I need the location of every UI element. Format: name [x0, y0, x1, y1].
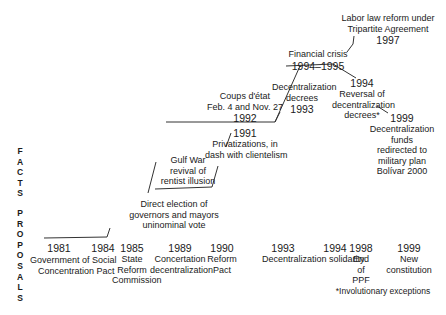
fact-text: governors and mayors: [119, 210, 229, 221]
proposal-year: 1998: [348, 242, 374, 254]
proposal-text: PPF: [348, 275, 374, 286]
fact-text: revival of: [160, 166, 216, 177]
proposal-text: Pact: [207, 265, 237, 276]
fact-year: 1993: [272, 103, 332, 115]
fact-text: Direct election of: [119, 199, 229, 210]
fact-text: funds: [365, 135, 439, 146]
fact-text: military plan: [365, 156, 439, 167]
fact-text: rentist illusion: [160, 176, 216, 187]
proposal-year: 1989: [150, 242, 210, 254]
fact-text: Financial crisis: [288, 49, 348, 60]
fact-text: decentralization: [332, 100, 392, 111]
proposal-text: Reform: [112, 265, 152, 276]
proposal-text: Reform: [207, 254, 237, 265]
proposal-year: 1993: [263, 242, 303, 254]
fact-privatizations: 1991 Privatizations, in dash with client…: [205, 127, 285, 160]
proposal-text: Concertation: [150, 254, 210, 265]
proposal-1990: 1990 Reform Pact: [207, 242, 237, 275]
proposal-1989: 1989 Concertation decentralization: [150, 242, 210, 275]
fact-funds-redirected: 1999 Decentralization funds redirected t…: [365, 112, 439, 177]
fact-text: Privatizations, in: [205, 139, 285, 150]
proposal-gov-social-text: Government of Social Concentration Pact: [30, 255, 114, 276]
proposal-year: 1985: [112, 242, 152, 254]
proposal-year: 1981: [44, 242, 74, 254]
proposal-1985: 1985 State Reform Commission: [112, 242, 152, 286]
proposal-text: Decentralization solidarity: [262, 254, 362, 265]
proposal-year: 1994: [320, 242, 350, 254]
proposal-1993: 1993: [263, 242, 303, 254]
fact-financial-crisis: Financial crisis 1994–1995: [288, 49, 348, 72]
proposal-year: 1990: [207, 242, 237, 254]
proposal-year: 1999: [384, 242, 434, 254]
fact-text: Decentralization: [272, 82, 332, 93]
fact-text: uninominal vote: [119, 220, 229, 231]
fact-direct-election: Direct election of governors and mayors …: [119, 199, 229, 231]
proposal-1981: 1981: [44, 242, 74, 254]
fact-text: redirected to: [365, 145, 439, 156]
fact-text: Labor law reform under: [336, 13, 440, 24]
proposal-1999: 1999 New constitution: [384, 242, 434, 275]
proposal-decentralization-solidarity: Decentralization solidarity: [262, 254, 362, 265]
fact-year: 1991: [205, 127, 285, 139]
fact-year: 1994: [332, 77, 392, 89]
fact-text: Tripartite Agreement: [336, 24, 440, 35]
proposal-1998: 1998 End of PPF: [348, 242, 374, 286]
fact-year: 1999: [365, 112, 439, 124]
proposal-text: End: [348, 254, 374, 265]
proposal-text: New: [384, 254, 434, 265]
proposal-text: Concentration Pact: [30, 266, 114, 277]
proposal-text: Government of Social: [30, 255, 114, 266]
fact-text: dash with clientelism: [205, 150, 285, 161]
proposal-text: of: [348, 265, 374, 276]
proposal-text: State: [112, 254, 152, 265]
fact-text: Bolívar 2000: [365, 166, 439, 177]
footnote: *Involutionary exceptions: [330, 286, 436, 297]
fact-labor-law: Labor law reform under Tripartite Agreem…: [336, 13, 440, 46]
fact-text: Reversal of: [332, 89, 392, 100]
proposal-text: Commission: [112, 275, 152, 286]
fact-year: 1994–1995: [288, 60, 348, 72]
fact-text: decrees: [272, 93, 332, 104]
fact-decentralization-decrees: Decentralization decrees 1993: [272, 82, 332, 115]
proposal-text: decentralization: [150, 265, 210, 276]
fact-year: 1997: [336, 34, 440, 46]
fact-text: Decentralization: [365, 124, 439, 135]
proposal-1994: 1994: [320, 242, 350, 254]
proposal-text: constitution: [384, 265, 434, 276]
